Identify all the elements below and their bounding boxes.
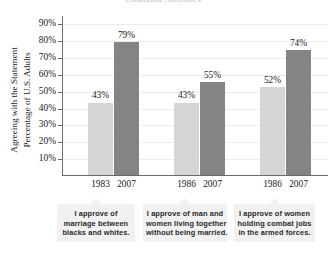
- callout-text-line: I approve of women: [237, 209, 312, 219]
- y-tick-label: 70%: [39, 53, 56, 62]
- callout-text-line: I approve of: [60, 209, 132, 219]
- bar-value-label: 79%: [118, 31, 135, 40]
- y-tick-label: 60%: [39, 70, 56, 79]
- y-tick-mark: [58, 75, 62, 76]
- chart-title-clipped: Changing Attitudes: [88, 0, 238, 2]
- callout-text-line: holding combat jobs: [237, 219, 312, 229]
- y-tick-label: 30%: [39, 121, 56, 130]
- y-tick-label: 20%: [39, 138, 56, 147]
- y-tick-mark: [58, 58, 62, 59]
- x-axis-line: [62, 175, 328, 176]
- y-tick-mark: [58, 41, 62, 42]
- bar: 55%: [200, 82, 225, 175]
- statement-callout: I approve of man andwomen living togethe…: [143, 204, 227, 242]
- callout-pointer-icon: [268, 198, 282, 205]
- bar-value-label: 43%: [92, 91, 109, 100]
- y-tick-mark: [58, 109, 62, 110]
- y-tick-mark: [58, 24, 62, 25]
- x-tick-label: 1986: [263, 180, 282, 189]
- y-tick-label: 10%: [39, 154, 56, 163]
- y-tick-mark: [58, 125, 62, 126]
- callout-text-line: in the armed forces.: [237, 228, 312, 238]
- plot-area: 10%20%30%40%50%60%70%80%90% 43%79%43%55%…: [62, 16, 328, 176]
- bar: 79%: [114, 42, 139, 175]
- y-tick-label: 50%: [39, 87, 56, 96]
- callout-layer: I approve ofmarriage betweenblacks and w…: [0, 196, 332, 258]
- gridline: [63, 41, 328, 42]
- chart-figure: Changing Attitudes Percentage of U.S. Ad…: [0, 0, 332, 258]
- y-tick-mark: [58, 142, 62, 143]
- callout-text-line: blacks and whites.: [60, 228, 132, 238]
- y-tick-label: 80%: [39, 37, 56, 46]
- x-tick-label: 1983: [91, 180, 110, 189]
- x-tick-label: 2007: [289, 180, 308, 189]
- y-tick-mark: [58, 159, 62, 160]
- bar: 74%: [286, 50, 311, 175]
- y-tick-label: 40%: [39, 104, 56, 113]
- bar-value-label: 74%: [290, 39, 307, 48]
- callout-pointer-icon: [178, 198, 192, 205]
- y-axis-title: Percentage of U.S. Adults Agreeing with …: [8, 14, 34, 186]
- callout-pointer-icon: [89, 198, 103, 205]
- bar-value-label: 55%: [204, 71, 221, 80]
- callout-text-line: I approve of man and: [146, 209, 224, 219]
- callout-text-line: marriage between: [60, 219, 132, 229]
- bar: 43%: [88, 103, 113, 175]
- x-tick-label: 2007: [117, 180, 136, 189]
- x-tick-label: 2007: [203, 180, 222, 189]
- y-tick-label: 90%: [39, 20, 56, 29]
- x-tick-label: 1986: [177, 180, 196, 189]
- y-axis-line: [62, 16, 63, 176]
- bar: 52%: [260, 87, 285, 175]
- statement-callout: I approve of womenholding combat jobsin …: [234, 204, 315, 242]
- bar-value-label: 43%: [178, 91, 195, 100]
- y-tick-mark: [58, 92, 62, 93]
- gridline: [63, 24, 328, 25]
- bar: 43%: [174, 103, 199, 175]
- bar-value-label: 52%: [264, 76, 281, 85]
- callout-text-line: women living together: [146, 219, 224, 229]
- statement-callout: I approve ofmarriage betweenblacks and w…: [57, 204, 135, 242]
- callout-text-line: without being married.: [146, 228, 224, 238]
